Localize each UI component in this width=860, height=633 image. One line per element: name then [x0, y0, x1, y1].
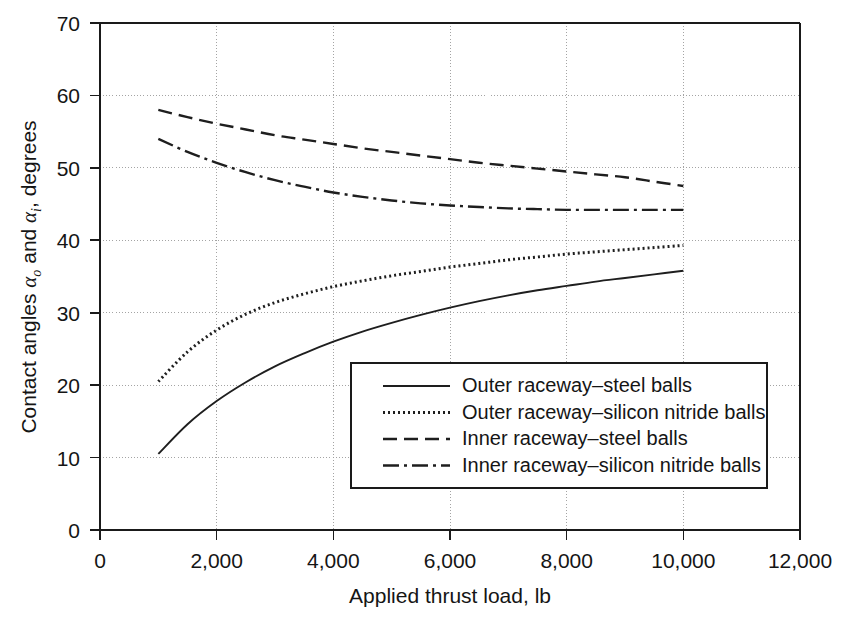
- x-tick-label-10000: 10,000: [651, 549, 715, 572]
- y-tick-label-70: 70: [57, 12, 80, 35]
- x-tick-label-2000: 2,000: [190, 549, 243, 572]
- y-axis-title-prefix: Contact angles: [17, 288, 40, 434]
- x-tick-label-8000: 8,000: [540, 549, 593, 572]
- y-axis-title-middle: and: [17, 223, 40, 270]
- y-tick-label-40: 40: [57, 229, 80, 252]
- y-tick-marks: [90, 23, 100, 530]
- series-line-2: [158, 110, 683, 186]
- y-tick-label-20: 20: [57, 374, 80, 397]
- y-tick-label-10: 10: [57, 447, 80, 470]
- x-tick-label-6000: 6,000: [424, 549, 477, 572]
- y-tick-label-60: 60: [57, 84, 80, 107]
- legend-label-0: Outer raceway–steel balls: [462, 374, 692, 396]
- y-axis-title: Contact angles αo and αi, degrees: [17, 120, 44, 433]
- y-tick-label-30: 30: [57, 302, 80, 325]
- x-tick-marks: [100, 530, 800, 540]
- legend-label-1: Outer raceway–silicon nitride balls: [462, 401, 765, 423]
- y-tick-label-0: 0: [68, 519, 80, 542]
- legend-label-3: Inner raceway–silicon nitride balls: [462, 454, 761, 476]
- x-tick-label-0: 0: [94, 549, 106, 572]
- series-line-1: [158, 245, 683, 381]
- y-axis-title-sub-o: o: [29, 270, 44, 277]
- x-axis-title: Applied thrust load, lb: [349, 584, 551, 607]
- chart-plot-area: 010203040506070 02,0004,0006,0008,00010,…: [0, 0, 860, 633]
- x-tick-labels: 02,0004,0006,0008,00010,00012,000: [94, 549, 832, 572]
- x-tick-label-4000: 4,000: [307, 549, 360, 572]
- y-tick-label-50: 50: [57, 157, 80, 180]
- svg-text:Contact angles αo and αi, degr: Contact angles αo and αi, degrees: [17, 120, 44, 433]
- chart-figure: 010203040506070 02,0004,0006,0008,00010,…: [0, 0, 860, 633]
- legend-label-2: Inner raceway–steel balls: [462, 427, 688, 449]
- y-axis-title-suffix: , degrees: [17, 120, 40, 208]
- y-tick-labels: 010203040506070: [57, 12, 80, 542]
- x-tick-label-12000: 12,000: [768, 549, 832, 572]
- chart-legend: Outer raceway–steel ballsOuter raceway–s…: [351, 363, 767, 488]
